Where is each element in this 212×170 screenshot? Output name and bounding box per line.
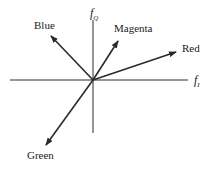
magenta-vector <box>93 41 118 80</box>
horizontal-axis-label: fI <box>194 73 200 89</box>
green-vector <box>46 80 93 145</box>
vertical-axis-label: fQ <box>90 6 98 22</box>
blue-label: Blue <box>34 19 55 31</box>
magenta-label: Magenta <box>114 22 153 34</box>
blue-vector <box>51 36 93 80</box>
green-label: Green <box>27 149 54 161</box>
red-vector <box>93 52 176 80</box>
red-label: Red <box>182 42 200 54</box>
phasor-diagram: Blue Magenta Red Green fQ fI <box>0 0 212 170</box>
